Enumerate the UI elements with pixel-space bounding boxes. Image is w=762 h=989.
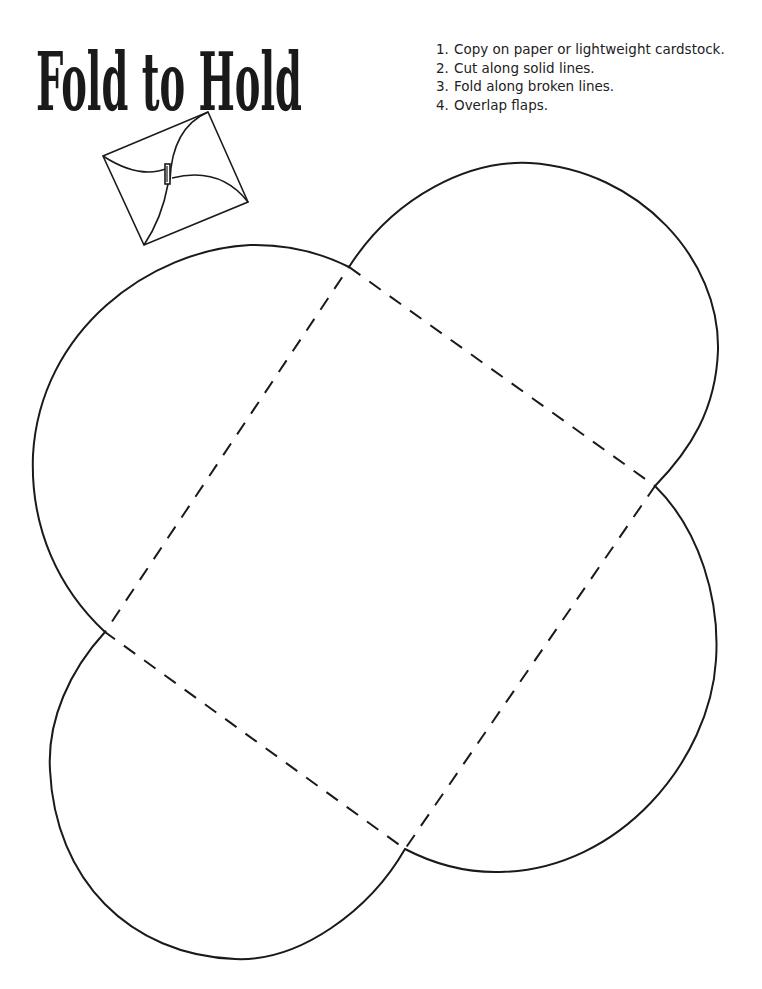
fold-lines <box>105 267 655 849</box>
cut-line-outline <box>33 163 718 959</box>
envelope-template <box>0 0 762 989</box>
